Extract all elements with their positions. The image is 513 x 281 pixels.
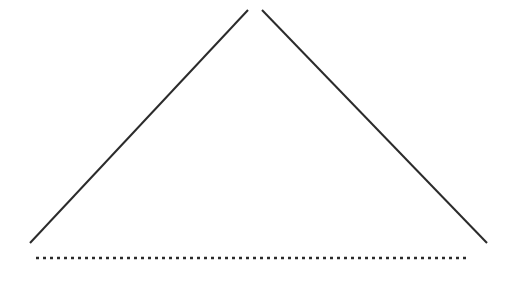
figure-background <box>0 0 513 281</box>
line-drawing-figure <box>0 0 513 281</box>
figure-canvas <box>0 0 513 281</box>
